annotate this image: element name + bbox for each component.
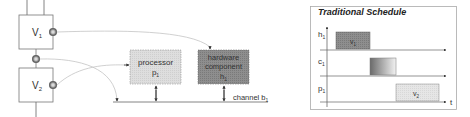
- v1-bottom-port-icon: [32, 55, 40, 63]
- v1-to-hardware-curve: [57, 31, 210, 47]
- architecture-diagram: V1 V2 processor p1 hardware component h1: [19, 0, 269, 117]
- schedule-title: Traditional Schedule: [318, 7, 406, 17]
- processor-p1-box[interactable]: [130, 50, 181, 84]
- processor-label: processor: [138, 58, 173, 67]
- v1-output-port-icon: [49, 28, 57, 36]
- hardware-label-line1: hardware: [208, 53, 239, 62]
- hardware-label-line2: component: [205, 62, 243, 71]
- traditional-schedule-panel: Traditional Schedule h1 c1 p1 v1 v2 t: [311, 7, 457, 110]
- v2-to-processor-curve: [57, 65, 125, 85]
- v2-output-port-icon: [49, 81, 57, 89]
- channel-label: channel b1: [233, 93, 269, 103]
- diagram-canvas: V1 V2 processor p1 hardware component h1: [0, 0, 470, 117]
- schedule-block-c1[interactable]: [370, 58, 396, 75]
